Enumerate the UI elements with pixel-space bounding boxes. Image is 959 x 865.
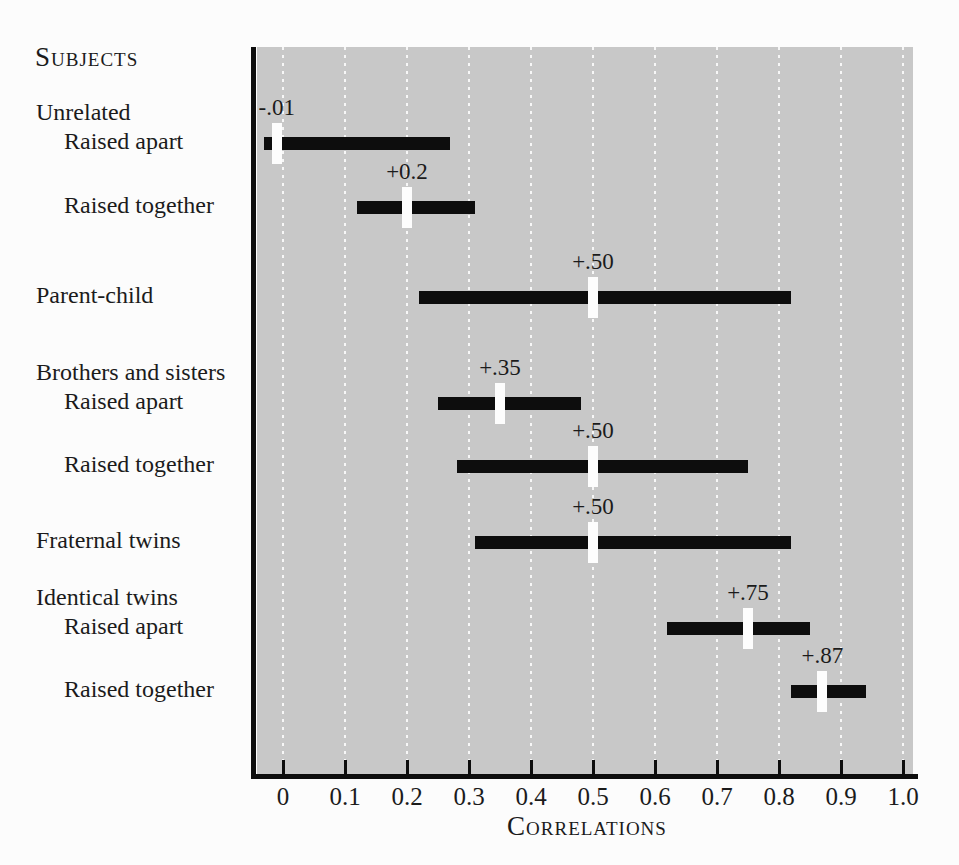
x-axis-tick-label: 0.4 — [499, 783, 563, 811]
range-bar — [791, 685, 865, 698]
row-label: Raised together — [64, 450, 214, 478]
range-bar — [357, 201, 475, 214]
x-axis-tick — [530, 760, 533, 774]
median-marker — [272, 123, 282, 164]
x-axis-tick-label: 0.9 — [809, 783, 873, 811]
median-label: +.50 — [548, 494, 638, 520]
group-label: Identical twins — [36, 583, 178, 611]
median-label: -.01 — [232, 95, 322, 121]
x-axis-tick — [902, 760, 905, 774]
range-bar — [667, 622, 810, 635]
x-axis-tick-label: 0 — [251, 783, 315, 811]
range-bar — [438, 397, 581, 410]
row-label: Raised apart — [64, 387, 183, 415]
median-label: +.50 — [548, 249, 638, 275]
group-label: Brothers and sisters — [36, 358, 225, 386]
gridline — [282, 47, 284, 774]
gridline — [592, 47, 594, 774]
median-marker — [588, 522, 598, 563]
x-axis-title: Correlations — [455, 811, 719, 842]
x-axis-tick — [778, 760, 781, 774]
range-bar — [264, 137, 450, 150]
x-axis-tick — [716, 760, 719, 774]
gridline — [654, 47, 656, 774]
row-label: Raised together — [64, 191, 214, 219]
x-axis-tick-label: 0.3 — [437, 783, 501, 811]
row-label: Fraternal twins — [36, 526, 181, 554]
median-label: +0.2 — [362, 159, 452, 185]
iq-correlation-range-chart: Subjects Correlations 00.10.20.30.40.50.… — [0, 0, 959, 865]
x-axis-line — [251, 774, 918, 779]
x-axis-tick — [468, 760, 471, 774]
x-axis-tick — [282, 760, 285, 774]
row-label: Raised apart — [64, 612, 183, 640]
range-bar — [457, 460, 748, 473]
gridline — [344, 47, 346, 774]
x-axis-tick — [406, 760, 409, 774]
x-axis-tick-label: 0.5 — [561, 783, 625, 811]
subjects-header: Subjects — [35, 42, 138, 73]
x-axis-tick-label: 0.7 — [685, 783, 749, 811]
range-bar — [419, 291, 791, 304]
row-label: Parent-child — [36, 281, 153, 309]
x-axis-tick-label: 1.0 — [871, 783, 935, 811]
x-axis-tick-label: 0.6 — [623, 783, 687, 811]
median-marker — [402, 187, 412, 228]
x-axis-tick — [840, 760, 843, 774]
median-marker — [495, 383, 505, 424]
gridline — [468, 47, 470, 774]
x-axis-tick — [654, 760, 657, 774]
median-marker — [817, 671, 827, 712]
median-label: +.35 — [455, 355, 545, 381]
gridline — [902, 47, 904, 774]
median-label: +.50 — [548, 418, 638, 444]
median-label: +.75 — [703, 580, 793, 606]
gridline — [530, 47, 532, 774]
x-axis-tick — [592, 760, 595, 774]
median-label: +.87 — [777, 643, 867, 669]
x-axis-tick-label: 0.1 — [313, 783, 377, 811]
gridline — [406, 47, 408, 774]
median-marker — [588, 277, 598, 318]
group-label: Unrelated — [36, 98, 131, 126]
range-bar — [475, 536, 791, 549]
gridline — [716, 47, 718, 774]
x-axis-tick-label: 0.2 — [375, 783, 439, 811]
row-label: Raised apart — [64, 127, 183, 155]
x-axis-tick — [344, 760, 347, 774]
x-axis-tick-label: 0.8 — [747, 783, 811, 811]
median-marker — [588, 446, 598, 487]
median-marker — [743, 608, 753, 649]
row-label: Raised together — [64, 675, 214, 703]
y-axis-line — [251, 47, 256, 779]
